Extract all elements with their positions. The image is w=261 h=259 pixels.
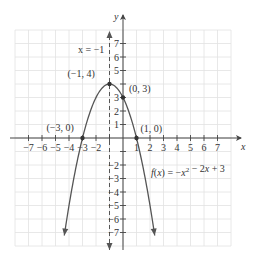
x-tick-label: 6	[202, 142, 207, 153]
y-tick-label: 7	[114, 38, 119, 49]
point-marker	[121, 95, 125, 99]
y-axis-label: y	[113, 11, 119, 22]
y-tick-label: −3	[108, 173, 119, 184]
point-marker	[134, 136, 138, 140]
y-tick-label: −5	[108, 200, 119, 211]
x-tick-label: −7	[23, 142, 34, 153]
y-tick-label: 3	[114, 92, 119, 103]
y-tick-label: 1	[114, 119, 119, 130]
y-tick-label: −2	[108, 160, 119, 171]
point-label: (1, 0)	[141, 123, 163, 135]
x-tick-label: 3	[161, 142, 166, 153]
x-tick-label: 7	[215, 142, 220, 153]
x-tick-label: 2	[148, 142, 153, 153]
x-tick-label: −2	[91, 142, 102, 153]
point-label: (−3, 0)	[47, 122, 74, 134]
point-marker	[80, 136, 84, 140]
y-tick-label: 6	[114, 52, 119, 63]
x-tick-label: −6	[37, 142, 48, 153]
point-marker	[107, 82, 111, 86]
y-tick-label: 2	[114, 106, 119, 117]
point-label: (−1, 4)	[68, 68, 95, 80]
y-tick-label: −6	[108, 214, 119, 225]
parabola-graph: −7−6−5−4−3−21234567765321−2−3−4−5−6−7 x …	[0, 0, 261, 259]
x-axis-label: x	[240, 141, 246, 152]
x-tick-label: −4	[64, 142, 75, 153]
x-tick-label: 5	[188, 142, 193, 153]
axis-of-symmetry-label: x = −1	[78, 44, 104, 55]
y-tick-label: −7	[108, 227, 119, 238]
y-tick-label: 5	[114, 65, 119, 76]
point-label: (0, 3)	[129, 83, 151, 95]
labeled-points: (−1, 4)(0, 3)(−3, 0)(1, 0)	[47, 68, 163, 140]
y-tick-label: −4	[108, 187, 119, 198]
x-tick-label: 4	[175, 142, 180, 153]
x-tick-label: −5	[50, 142, 61, 153]
